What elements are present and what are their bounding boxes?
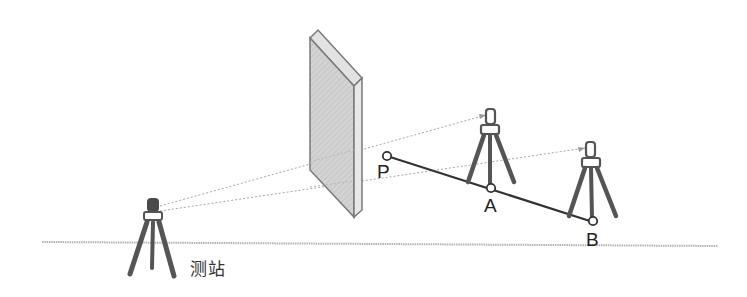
sight-line-to-b — [160, 148, 585, 211]
point-b-marker — [589, 217, 597, 225]
label-station: 测站 — [190, 261, 226, 278]
station-tripod-icon — [130, 198, 174, 276]
ground-line — [42, 242, 718, 246]
point-p-marker — [383, 152, 391, 160]
label-point-a: A — [484, 196, 497, 215]
target-b-tripod-icon — [569, 142, 616, 218]
label-point-p: P — [377, 162, 390, 181]
surveying-diagram — [0, 0, 747, 297]
point-a-marker — [487, 184, 495, 192]
label-point-b: B — [586, 230, 599, 249]
wall-obstacle — [310, 30, 362, 217]
target-a-tripod-icon — [468, 109, 514, 185]
